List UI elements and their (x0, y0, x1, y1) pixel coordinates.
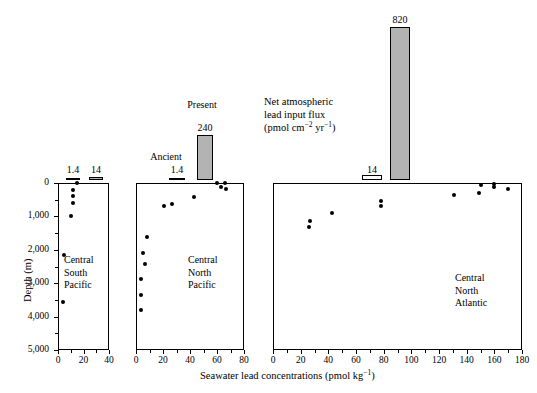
x-axis-title-suffix: ) (371, 370, 375, 381)
caption-line: Central (64, 254, 93, 267)
x-axis-minor-tick (150, 350, 151, 353)
x-axis-minor-tick (398, 350, 399, 353)
x-axis-tick (467, 350, 468, 354)
x-axis-tick (58, 350, 59, 354)
x-axis-tick-label: 80 (229, 355, 259, 366)
data-point (379, 199, 383, 203)
caption-line: Pacific (188, 279, 217, 292)
y-axis-minor-tick (55, 300, 58, 301)
y-axis-tick (54, 283, 58, 284)
panel-central-north-pacific-caption: Central North Pacific (188, 254, 217, 292)
annotation-present: Present (172, 99, 232, 110)
x-axis-title-prefix: Seawater lead concentrations (pmol kg (200, 370, 363, 381)
caption-line: South (64, 267, 93, 280)
flux-bar-value-label: 820 (380, 14, 420, 25)
x-axis-tick-label: 60 (202, 355, 232, 366)
x-axis-tick-label: 160 (479, 355, 509, 366)
y-axis-minor-tick (55, 333, 58, 334)
caption-line: North (455, 285, 487, 298)
y-axis-tick (54, 317, 58, 318)
flux-legend-unit-sup-2: −1 (324, 120, 332, 129)
data-point (479, 183, 483, 187)
data-point (141, 251, 145, 255)
flux-legend-line-3: (pmol cm−2 yr−1) (264, 121, 335, 134)
x-axis-tick (273, 350, 274, 354)
x-axis-minor-tick (96, 350, 97, 353)
x-axis-tick (217, 350, 218, 354)
y-axis-tick (54, 216, 58, 217)
data-point (219, 185, 223, 189)
x-axis-minor-tick (177, 350, 178, 353)
caption-line: Central (455, 272, 487, 285)
x-axis-minor-tick (231, 350, 232, 353)
x-axis-tick-label: 180 (507, 355, 537, 366)
x-axis-minor-tick (453, 350, 454, 353)
x-axis-minor-tick (315, 350, 316, 353)
data-point (307, 225, 311, 229)
x-axis-minor-tick (204, 350, 205, 353)
panel-central-north-atlantic-caption: Central North Atlantic (455, 272, 487, 310)
x-axis-tick (356, 350, 357, 354)
flux-legend-unit-mid: yr (313, 122, 324, 133)
flux-legend-unit-sup-1: −2 (305, 120, 313, 129)
y-axis-tick (54, 183, 58, 184)
flux-bar (169, 178, 185, 180)
y-axis-tick (54, 350, 58, 351)
y-axis-tick (54, 250, 58, 251)
x-axis-minor-tick (342, 350, 343, 353)
x-axis-tick-label: 80 (369, 355, 399, 366)
flux-bar-value-label: 240 (185, 122, 225, 133)
x-axis-tick (190, 350, 191, 354)
x-axis-tick-label: 0 (121, 355, 151, 366)
x-axis-minor-tick (481, 350, 482, 353)
flux-bar (390, 27, 410, 180)
x-axis-tick (136, 350, 137, 354)
x-axis-tick (301, 350, 302, 354)
x-axis-tick-label: 120 (424, 355, 454, 366)
figure-root: Depth (m) Seawater lead concentrations (… (0, 0, 537, 393)
y-axis-minor-tick (55, 267, 58, 268)
data-point (61, 300, 65, 304)
x-axis-tick (163, 350, 164, 354)
data-point (69, 214, 73, 218)
flux-legend-line-1: Net atmospheric (264, 95, 335, 108)
y-axis-tick-label: 4,000 (13, 311, 49, 322)
x-axis-tick (244, 350, 245, 354)
x-axis-minor-tick (425, 350, 426, 353)
flux-bar (362, 175, 382, 180)
y-axis-minor-tick (55, 233, 58, 234)
y-axis-minor-tick (55, 200, 58, 201)
x-axis-minor-tick (287, 350, 288, 353)
x-axis-minor-tick (370, 350, 371, 353)
caption-line: North (188, 267, 217, 280)
x-axis-tick-label: 140 (452, 355, 482, 366)
x-axis-tick (328, 350, 329, 354)
x-axis-minor-tick (508, 350, 509, 353)
x-axis-tick-label: 40 (175, 355, 205, 366)
x-axis-tick (84, 350, 85, 354)
flux-legend-unit-suffix: ) (332, 122, 336, 133)
caption-line: Central (188, 254, 217, 267)
flux-bar-value-label: 1.4 (157, 164, 197, 175)
panel-central-north-atlantic (273, 183, 522, 350)
x-axis-tick-label: 20 (148, 355, 178, 366)
x-axis-tick-label: 40 (313, 355, 343, 366)
x-axis-tick (522, 350, 523, 354)
flux-bar-value-label: 14 (76, 164, 116, 175)
caption-line: Atlantic (455, 297, 487, 310)
x-axis-tick-label: 20 (286, 355, 316, 366)
y-axis-tick-label: 3,000 (13, 277, 49, 288)
y-axis-tick-label: 1,000 (13, 210, 49, 221)
x-axis-tick-label: 40 (94, 355, 124, 366)
x-axis-tick (494, 350, 495, 354)
flux-legend-title: Net atmospheric lead input flux (pmol cm… (264, 95, 335, 134)
y-axis-tick-label: 2,000 (13, 244, 49, 255)
x-axis-minor-tick (71, 350, 72, 353)
x-axis-tick-label: 0 (258, 355, 288, 366)
flux-bar (66, 178, 80, 180)
x-axis-tick (439, 350, 440, 354)
panel-central-south-pacific-caption: Central South Pacific (64, 254, 93, 292)
caption-line: Pacific (64, 279, 93, 292)
annotation-ancient: Ancient (136, 151, 196, 162)
x-axis-tick (411, 350, 412, 354)
